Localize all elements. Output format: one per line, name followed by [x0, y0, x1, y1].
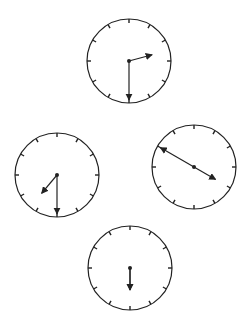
tick-mark — [93, 40, 96, 42]
tick-mark — [109, 232, 111, 235]
tick-mark — [21, 194, 24, 196]
tick-mark — [158, 186, 161, 188]
hour-hand — [42, 175, 57, 193]
clock-bottom — [88, 226, 172, 310]
hour-hand — [194, 167, 216, 180]
tick-mark — [173, 200, 175, 203]
tick-mark — [213, 131, 215, 134]
tick-mark — [227, 146, 230, 148]
tick-mark — [76, 208, 78, 211]
tick-mark — [149, 232, 151, 235]
tick-mark — [227, 186, 230, 188]
tick-mark — [94, 247, 97, 249]
tick-mark — [109, 301, 111, 304]
tick-mark — [213, 200, 215, 203]
tick-mark — [108, 25, 110, 28]
tick-mark — [173, 131, 175, 134]
center-pin — [55, 173, 59, 177]
tick-mark — [149, 301, 151, 304]
hour-hand — [129, 55, 152, 61]
clock-left — [15, 133, 99, 217]
center-pin — [192, 165, 196, 169]
tick-mark — [94, 287, 97, 289]
tick-mark — [21, 154, 24, 156]
minute-hand — [160, 148, 194, 168]
tick-mark — [93, 80, 96, 82]
clocks-figure — [0, 0, 252, 327]
tick-mark — [148, 94, 150, 97]
clock-top — [87, 19, 171, 103]
tick-mark — [162, 40, 165, 42]
center-pin — [127, 59, 131, 63]
center-pin — [128, 266, 132, 270]
tick-mark — [162, 80, 165, 82]
tick-mark — [108, 94, 110, 97]
tick-mark — [36, 139, 38, 142]
tick-mark — [76, 139, 78, 142]
tick-mark — [148, 25, 150, 28]
tick-mark — [36, 208, 38, 211]
clock-right — [152, 125, 236, 209]
tick-mark — [163, 247, 166, 249]
tick-mark — [90, 194, 93, 196]
tick-mark — [90, 154, 93, 156]
tick-mark — [163, 287, 166, 289]
